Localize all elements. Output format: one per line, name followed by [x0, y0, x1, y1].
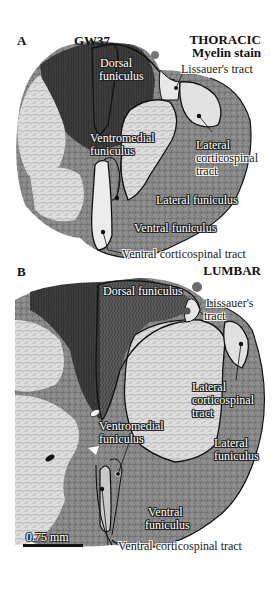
label-a-dorsal-funiculus-1: Dorsal — [100, 57, 132, 69]
label-b-lateral-funiculus-1: Lateral — [214, 437, 248, 449]
label-a-lissauers-tract: Lissauer's tract — [181, 63, 253, 75]
label-b-lateral-funiculus-2: funiculus — [214, 450, 259, 462]
label-a-ventral-cst: Ventral corticospinal tract — [122, 248, 246, 260]
label-b-ventromedial-2: funiculus — [99, 433, 144, 445]
label-b-lissauers-2: tract — [204, 310, 225, 322]
panel-a-stain: Myelin stain — [192, 46, 261, 59]
label-b-ventral-cst: Ventral corticospinal tract — [118, 540, 242, 552]
label-b-lissauers-1: Lissauer's — [206, 297, 253, 309]
spinal-cord-figure: A GW37 THORACIC Myelin stain Dorsal funi… — [0, 0, 278, 592]
scale-bar-label: 0.75 mm — [26, 530, 69, 545]
label-a-ventromedial-1: Ventromedial — [90, 132, 155, 144]
label-b-ventral-funiculus-2: funiculus — [145, 519, 190, 531]
panel-a-age: GW37 — [74, 33, 110, 49]
label-a-lateral-cst-1: Lateral — [196, 139, 230, 151]
panel-b-section — [15, 278, 264, 548]
label-b-lateral-cst-1: Lateral — [192, 381, 226, 393]
panel-b-level: LUMBAR — [203, 264, 261, 277]
panel-a-letter: A — [17, 33, 26, 49]
label-b-ventromedial-1: Ventromedial — [99, 420, 164, 432]
label-a-lateral-cst-3: tract — [196, 165, 217, 177]
label-b-ventral-funiculus-1: Ventral — [148, 506, 183, 518]
scale-bar — [23, 544, 83, 547]
label-a-lateral-funiculus: Lateral funiculus — [156, 194, 238, 206]
panel-b-letter: B — [17, 264, 26, 280]
label-b-dorsal-funiculus: Dorsal funiculus — [103, 285, 183, 297]
label-a-dorsal-funiculus-2: funiculus — [99, 70, 144, 82]
label-a-ventral-funiculus: Ventral funiculus — [134, 222, 216, 234]
label-b-lateral-cst-2: corticospinal — [192, 394, 254, 406]
label-a-ventromedial-2: funiculus — [90, 145, 135, 157]
label-a-lateral-cst-2: corticospinal — [196, 152, 258, 164]
label-b-lateral-cst-3: tract — [192, 407, 213, 419]
